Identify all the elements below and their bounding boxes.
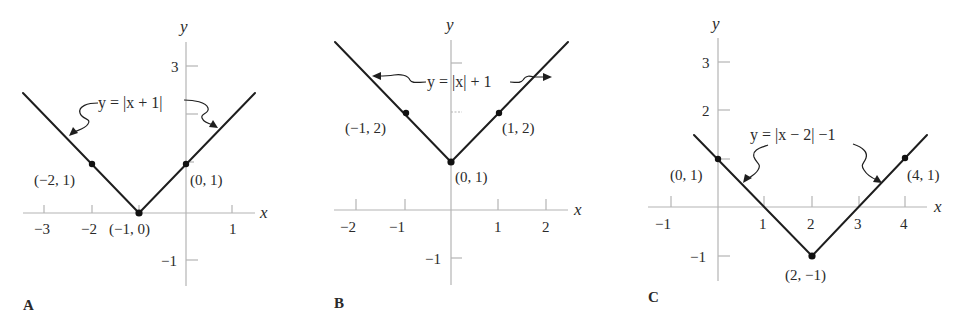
graph-line [23,93,255,213]
point-label: (0, 1) [670,167,703,184]
x-tick-label: −1 [389,219,405,235]
panel-label: B [334,295,344,311]
panel-a: x y −3 −2 1 3 −1 (−2, 1) (0, 1) (−1, 0) … [23,17,268,313]
point-marker [89,161,95,167]
point-marker [808,252,815,259]
x-tick-label: 4 [900,216,908,232]
point-label: (−1, 2) [345,120,386,137]
x-tick-label: −3 [34,221,50,237]
equation-label: y = |x − 2| −1 [750,126,835,144]
x-tick-label: 2 [807,216,815,232]
equation-label: y = |x| + 1 [427,73,491,91]
x-axis-label: x [573,200,582,219]
point-marker [183,161,189,167]
point-label: (−2, 1) [34,172,75,189]
arrowhead-icon [543,73,552,81]
x-tick-label: 1 [494,219,502,235]
point-label: (0, 1) [190,172,223,189]
y-tick-label: −1 [690,249,706,265]
x-tick-label: 2 [542,219,550,235]
panel-b: x y −2 −1 1 2 −1 (−1, 2) (1, 2) (0, 1) y… [334,15,582,311]
y-axis-label: y [178,17,188,36]
callout-arrow-right [510,76,546,82]
panel-c: x y −1 1 2 3 4 3 2 −1 (0, 1) (4, 1) (2, … [648,14,942,305]
callout-arrow-right [853,144,877,180]
callout-arrow-left [747,145,768,179]
arrowhead-icon [372,72,381,80]
abs-value-graphs-figure: x y −3 −2 1 3 −1 (−2, 1) (0, 1) (−1, 0) … [0,0,973,328]
x-tick-label: 1 [229,221,237,237]
x-axis-label: x [933,197,942,216]
point-marker [496,110,502,116]
y-axis-label: y [444,15,454,34]
x-tick-label: 3 [854,216,862,232]
y-tick-label: 3 [702,55,710,71]
callout-arrow-right [184,100,214,125]
graph-line [694,135,927,256]
point-marker [447,158,454,165]
point-label: (1, 2) [502,120,535,137]
y-tick-label: −1 [425,251,441,267]
x-tick-label: 1 [759,216,767,232]
x-tick-label: −1 [655,216,671,232]
equation-label: y = |x + 1| [98,94,162,112]
point-label: (−1, 0) [109,221,150,238]
point-label: (4, 1) [907,167,940,184]
panel-label: A [23,297,34,313]
arrowhead-icon [743,174,752,183]
point-marker [715,156,721,162]
point-label: (2, −1) [785,267,826,284]
x-tick-label: −2 [340,219,356,235]
point-marker [902,155,908,161]
y-tick-label: −1 [161,253,177,269]
point-marker [135,209,142,216]
point-marker [403,110,409,116]
callout-arrow-left [378,75,426,83]
point-label: (0, 1) [455,169,488,186]
y-tick-label: 3 [171,59,179,75]
y-axis-label: y [710,14,720,33]
panel-label: C [648,289,659,305]
callout-arrow-left [72,103,98,133]
arrowhead-icon [69,127,78,136]
x-tick-label: −2 [81,221,97,237]
x-axis-label: x [259,203,268,222]
y-tick-label: 2 [702,103,710,119]
